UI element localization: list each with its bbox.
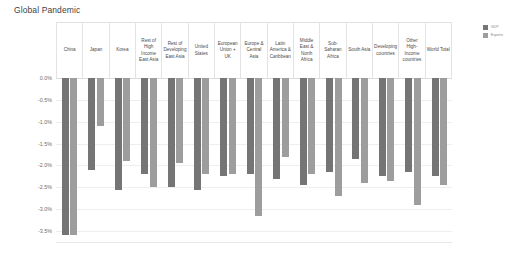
bar-exports[interactable] [150, 78, 157, 187]
category-label: Sub-Saharan Africa [321, 41, 344, 60]
bar-exports[interactable] [440, 78, 447, 185]
bar-gdp[interactable] [194, 78, 201, 190]
bar-group [56, 78, 82, 242]
bar-group [320, 78, 346, 242]
bar-group [214, 78, 240, 242]
category-header-cell: China [56, 22, 82, 78]
category-label: Europe & Central Asia [242, 41, 265, 60]
bar-gdp[interactable] [326, 78, 333, 172]
plot-body: 0.0%-0.5%-1.0%-1.5%-2.0%-2.5%-3.0%-3.5% [56, 78, 452, 242]
bar-group [162, 78, 188, 242]
category-label: Japan [90, 47, 103, 53]
bar-group [241, 78, 267, 242]
bar-group [399, 78, 425, 242]
bar-group [346, 78, 372, 242]
category-header-cell: South Asia [346, 22, 372, 78]
category-header-band: ChinaJapanKoreaRest of High Income East … [56, 22, 452, 78]
bar-gdp[interactable] [115, 78, 122, 190]
bar-group [135, 78, 161, 242]
y-axis-tick-label: -2.5% [38, 184, 52, 190]
bar-exports[interactable] [387, 78, 394, 181]
category-label: United States [190, 44, 213, 56]
category-header-cell: Developing countries [372, 22, 398, 78]
bar-gdp[interactable] [168, 78, 175, 187]
legend-label: GDP [491, 25, 499, 30]
legend-item[interactable]: GDP [483, 24, 503, 30]
bar-group [294, 78, 320, 242]
bar-exports[interactable] [308, 78, 315, 174]
category-header-cell: Rest of High Income East Asia [135, 22, 161, 78]
category-label: Rest of Developing East Asia [163, 41, 186, 60]
legend-swatch-icon [483, 25, 488, 30]
bar-gdp[interactable] [88, 78, 95, 170]
category-header-cell: Rest of Developing East Asia [161, 22, 187, 78]
bar-group [426, 78, 452, 242]
bar-gdp[interactable] [405, 78, 412, 172]
bar-gdp[interactable] [62, 78, 69, 235]
category-label: Korea [116, 47, 128, 53]
chart-legend: GDPExports [483, 24, 503, 38]
y-axis-tick-label: -3.0% [38, 206, 52, 212]
bar-group [109, 78, 135, 242]
bar-gdp[interactable] [141, 78, 148, 174]
legend-swatch-icon [483, 33, 488, 38]
plot-area: ChinaJapanKoreaRest of High Income East … [56, 22, 452, 242]
category-header-cell: Sub-Saharan Africa [319, 22, 345, 78]
y-axis-tick-label: -3.5% [38, 228, 52, 234]
bar-gdp[interactable] [247, 78, 254, 174]
category-header-cell: Latin America & Caribbean [267, 22, 293, 78]
bar-exports[interactable] [255, 78, 262, 216]
plot-baseline [56, 242, 452, 243]
bar-exports[interactable] [123, 78, 130, 161]
bar-gdp[interactable] [273, 78, 280, 179]
bar-exports[interactable] [335, 78, 342, 196]
legend-item[interactable]: Exports [483, 32, 503, 38]
category-header-cell: Middle East & North Africa [293, 22, 319, 78]
bar-exports[interactable] [202, 78, 209, 174]
category-label: Developing countries [374, 44, 397, 56]
category-header-cell: European Union + UK [214, 22, 240, 78]
chart-title: Global Pandemic [14, 5, 80, 15]
legend-label: Exports [491, 33, 503, 38]
y-axis-tick-label: -0.5% [38, 97, 52, 103]
category-header-cell: United States [188, 22, 214, 78]
bar-gdp[interactable] [352, 78, 359, 159]
category-label: South Asia [348, 47, 370, 53]
y-axis-tick-label: -2.0% [38, 162, 52, 168]
category-header-cell: Japan [82, 22, 108, 78]
y-axis-tick-label: -1.0% [38, 119, 52, 125]
bar-exports[interactable] [282, 78, 289, 157]
category-label: China [64, 47, 76, 53]
bar-group [267, 78, 293, 242]
y-axis-tick-label: -1.5% [38, 141, 52, 147]
bar-exports[interactable] [361, 78, 368, 183]
category-label: Rest of High Income East Asia [137, 38, 160, 63]
category-label: Latin America & Caribbean [269, 41, 292, 60]
bar-gdp[interactable] [220, 78, 227, 176]
bar-group [188, 78, 214, 242]
bar-gdp[interactable] [379, 78, 386, 176]
category-header-cell: World Total [425, 22, 452, 78]
bar-groups [56, 78, 452, 242]
bar-exports[interactable] [176, 78, 183, 163]
bar-exports[interactable] [97, 78, 104, 126]
bar-gdp[interactable] [300, 78, 307, 185]
y-axis-tick-label: 0.0% [40, 75, 52, 81]
category-header-cell: Korea [109, 22, 135, 78]
category-label: Other High-Income countries [400, 38, 423, 63]
bar-group [373, 78, 399, 242]
category-label: European Union + UK [216, 41, 239, 60]
category-label: World Total [427, 47, 450, 53]
category-header-cell: Other High-Income countries [398, 22, 424, 78]
chart-container: Global Pandemic GDPExports ChinaJapanKor… [0, 0, 509, 254]
category-label: Middle East & North Africa [295, 38, 318, 63]
category-header-cell: Europe & Central Asia [240, 22, 266, 78]
bar-exports[interactable] [70, 78, 77, 235]
bar-group [82, 78, 108, 242]
bar-gdp[interactable] [432, 78, 439, 176]
bar-exports[interactable] [229, 78, 236, 174]
bar-exports[interactable] [414, 78, 421, 205]
